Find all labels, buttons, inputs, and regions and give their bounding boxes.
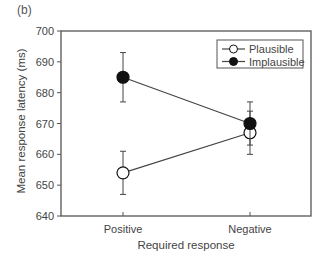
filled-circle-marker xyxy=(117,71,129,83)
y-tick-label: 670 xyxy=(36,118,54,130)
y-tick-label: 680 xyxy=(36,87,54,99)
series-line xyxy=(123,133,250,173)
open-circle-marker xyxy=(117,167,129,179)
series-plausible xyxy=(117,111,256,194)
legend-label: Plausible xyxy=(249,43,294,55)
legend: PlausibleImplausible xyxy=(217,40,305,68)
filled-circle-marker xyxy=(244,118,256,130)
y-tick-label: 700 xyxy=(36,25,54,37)
open-circle-icon xyxy=(230,45,238,53)
y-tick-label: 690 xyxy=(36,56,54,68)
y-tick-label: 650 xyxy=(36,179,54,191)
series-line xyxy=(123,77,250,123)
x-axis-label: Required response xyxy=(137,239,234,251)
filled-circle-icon xyxy=(230,58,238,66)
x-tick-label: Negative xyxy=(228,223,271,235)
legend-label: Implausible xyxy=(249,56,305,68)
data-series xyxy=(117,53,256,195)
line-chart: 640650660670680690700 PositiveNegative P… xyxy=(0,0,323,266)
y-tick-label: 640 xyxy=(36,210,54,222)
y-axis-ticks: 640650660670680690700 xyxy=(36,25,61,222)
y-axis-label: Mean response latency (ms) xyxy=(15,48,27,193)
y-tick-label: 660 xyxy=(36,148,54,160)
x-tick-label: Positive xyxy=(104,223,143,235)
